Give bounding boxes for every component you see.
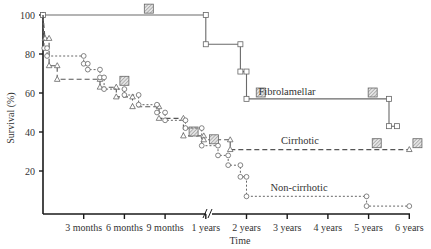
censored-box-cirrhotic [372,139,381,148]
x-tick-label: 2 years [232,222,261,233]
label-fibrolamellar: Fibrolamellar [258,86,316,97]
marker-non-cirrhotic [238,163,243,168]
marker-non-cirrhotic [155,102,160,107]
marker-non-cirrhotic [136,93,141,98]
marker-cirrhotic [130,104,136,109]
series-line-fibrolamellar [43,15,397,126]
marker-non-cirrhotic [85,67,90,72]
marker-fibrolamellar [386,96,391,101]
y-tick-label: 20 [25,166,35,177]
axis-break-mark-2 [208,209,212,218]
marker-non-cirrhotic [244,174,249,179]
marker-non-cirrhotic [364,204,369,209]
x-tick-label: 6 months [106,222,143,233]
y-axis-title: Survival (%) [5,92,17,143]
x-tick-label: 6 years [395,222,424,233]
marker-non-cirrhotic [199,143,204,148]
series-line-cirrhotic [43,15,409,150]
marker-cirrhotic [181,133,187,138]
marker-cirrhotic [113,84,119,89]
x-ticks: 3 months6 months9 months1 years2 years3 … [65,214,423,233]
x-tick-label: 5 years [354,222,383,233]
censored-box-fibrolamellar [368,88,377,97]
x-tick-label: 3 months [65,222,102,233]
y-tick-label: 40 [25,127,35,138]
marker-non-cirrhotic [163,118,168,123]
marker-fibrolamellar [395,124,400,129]
marker-non-cirrhotic [163,110,168,115]
marker-non-cirrhotic [216,143,221,148]
marker-non-cirrhotic [102,87,107,92]
marker-non-cirrhotic [226,153,231,158]
censored-box-cirrhotic [413,139,422,148]
x-tick-label: 1 years [191,222,220,233]
marker-fibrolamellar [238,42,243,47]
marker-non-cirrhotic [81,54,86,59]
marker-non-cirrhotic [226,163,231,168]
censored-box-fibrolamellar [144,4,153,13]
marker-non-cirrhotic [199,126,204,131]
marker-non-cirrhotic [102,75,107,80]
marker-fibrolamellar [244,96,249,101]
censored-box-cirrhotic [209,135,218,144]
marker-fibrolamellar [203,13,208,18]
survival-chart: 20406080100 3 months6 months9 months1 ye… [0,0,431,249]
marker-non-cirrhotic [238,174,243,179]
label-cirrhotic: Cirrhotic [281,135,319,146]
marker-non-cirrhotic [122,87,127,92]
marker-non-cirrhotic [364,194,369,199]
x-tick-label: 3 years [273,222,302,233]
y-tick-label: 60 [25,88,35,99]
marker-non-cirrhotic [98,67,103,72]
marker-fibrolamellar [238,69,243,74]
marker-non-cirrhotic [155,110,160,115]
marker-non-cirrhotic [407,204,412,209]
x-axis-title: Time [230,235,251,246]
marker-non-cirrhotic [45,46,50,51]
x-tick-label: 9 months [147,222,184,233]
x-tick-label: 4 years [314,222,343,233]
censored-box-cirrhotic [120,76,129,85]
marker-non-cirrhotic [216,153,221,158]
marker-cirrhotic [54,63,60,68]
marker-cirrhotic [54,76,60,81]
marker-non-cirrhotic [183,126,188,131]
marker-non-cirrhotic [122,93,127,98]
y-tick-label: 100 [20,10,35,21]
marker-fibrolamellar [244,69,249,74]
marker-non-cirrhotic [244,194,249,199]
marker-non-cirrhotic [183,118,188,123]
y-ticks: 20406080100 [20,10,43,177]
series-group [41,4,422,208]
y-tick-label: 80 [25,49,35,60]
marker-non-cirrhotic [85,61,90,66]
marker-non-cirrhotic [136,102,141,107]
label-non-cirrhotic: Non-cirrhotic [270,182,327,193]
marker-fibrolamellar [386,124,391,129]
marker-fibrolamellar [203,42,208,47]
series-line-non-cirrhotic [43,15,409,206]
marker-non-cirrhotic [45,54,50,59]
axes [43,12,410,218]
